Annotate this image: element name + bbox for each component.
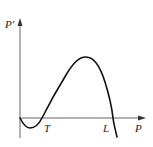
diagram-canvas <box>0 0 153 147</box>
x-axis-arrow-icon <box>138 116 146 121</box>
l-point-label: L <box>103 123 109 134</box>
phase-diagram: P′ T L P <box>0 0 153 147</box>
y-axis-label: P′ <box>5 19 14 30</box>
t-point-label: T <box>44 123 50 134</box>
y-axis-arrow-icon <box>18 18 23 26</box>
x-axis-label: P <box>135 123 142 134</box>
